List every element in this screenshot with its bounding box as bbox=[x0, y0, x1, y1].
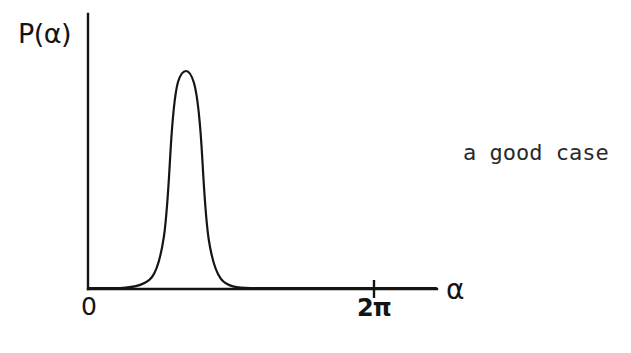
distribution-curve bbox=[89, 71, 436, 288]
figure-canvas: P(α) 0 2π α a good case bbox=[0, 0, 631, 353]
x-tick-label-2pi: 2π bbox=[357, 296, 391, 320]
x-axis-label: α bbox=[446, 276, 464, 304]
annotation-good-case: a good case bbox=[463, 142, 609, 164]
origin-label: 0 bbox=[81, 294, 97, 319]
y-axis-label: P(α) bbox=[18, 20, 71, 47]
